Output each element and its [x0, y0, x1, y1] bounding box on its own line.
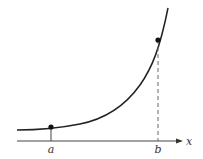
point-b-label: b — [154, 143, 161, 156]
point-a-label: a — [48, 143, 55, 156]
x-axis-label: x — [186, 135, 193, 148]
exponential-curve — [17, 8, 168, 130]
exponential-diagram: x a b — [0, 0, 203, 159]
x-axis-arrow-icon — [176, 139, 183, 144]
point-a-marker — [48, 124, 53, 129]
point-b-marker — [155, 37, 160, 42]
